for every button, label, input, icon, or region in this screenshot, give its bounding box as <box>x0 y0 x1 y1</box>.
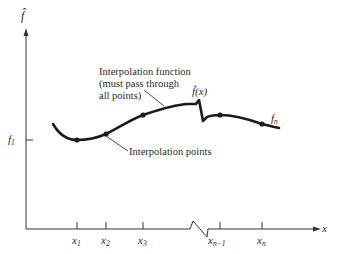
tick-label-sub: 3 <box>143 239 147 248</box>
point-x1 <box>74 137 79 142</box>
x-axis-arrow-icon <box>313 227 321 232</box>
interpolation-diagram <box>0 0 340 254</box>
tick-label-x2: x2 <box>101 235 110 248</box>
f1-sub: 1 <box>11 138 15 147</box>
tick-label-sub: n <box>262 239 266 248</box>
point-x2 <box>103 131 108 136</box>
tick-label-sub: 2 <box>106 239 110 248</box>
leader-interpolation-points <box>106 136 128 151</box>
tick-label-xn-1: xn−1 <box>208 235 225 248</box>
annotation-line-1: Interpolation function <box>99 66 191 78</box>
interpolation-points-annotation: Interpolation points <box>129 146 212 158</box>
f1-label: f1 <box>8 134 15 147</box>
annotation-line-2: (must pass through <box>99 78 191 90</box>
tick-label-x1: x1 <box>72 235 81 248</box>
fn-sub: n <box>274 117 278 126</box>
point-x3 <box>140 112 145 117</box>
fhat-x-label: f̂(x) <box>192 86 207 97</box>
y-axis-arrow-icon <box>24 28 29 36</box>
interpolation-curve <box>53 100 279 140</box>
interpolation-function-annotation: Interpolation function (must pass throug… <box>99 66 191 102</box>
tick-label-xn: xn <box>257 235 266 248</box>
point-xn-1 <box>217 112 222 117</box>
annotation-line-3: all points) <box>99 90 191 102</box>
axis-break-icon <box>190 221 208 237</box>
point-xn <box>259 121 264 126</box>
tick-label-x3: x3 <box>138 235 147 248</box>
tick-label-sub: 1 <box>77 239 81 248</box>
y-axis-label: f̂ <box>21 10 24 22</box>
tick-label-sub: n−1 <box>213 239 226 248</box>
y-axis <box>24 28 34 229</box>
x-axis <box>26 221 321 237</box>
x-axis-label: x <box>322 223 327 234</box>
fn-label: fn <box>271 113 278 126</box>
